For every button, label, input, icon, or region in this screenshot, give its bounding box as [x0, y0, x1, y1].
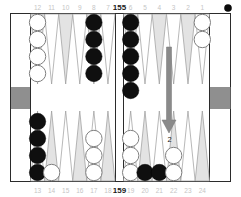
black-checker-point-8 [86, 65, 102, 81]
black-checker-point-8 [86, 31, 102, 47]
black-checker-point-8 [86, 14, 102, 30]
pip-count-bottom: 159 [113, 186, 127, 195]
point-number-label: 21 [156, 187, 164, 194]
white-checker-point-12 [29, 31, 45, 47]
point-number-label: 18 [104, 187, 112, 194]
point-number-label: 24 [199, 187, 207, 194]
white-checker-point-12 [29, 48, 45, 64]
white-checker-point-12 [29, 65, 45, 81]
on-roll-indicator [224, 4, 232, 12]
white-checker-point-12 [29, 14, 45, 30]
point-number-label: 5 [143, 4, 147, 11]
white-checker-point-19 [122, 130, 138, 146]
point-number-label: 10 [62, 4, 70, 11]
black-checker-point-8 [86, 48, 102, 64]
black-checker-point-20 [137, 164, 153, 180]
right-tray-block [210, 87, 231, 109]
point-number-label: 4 [158, 4, 162, 11]
black-checker-point-6 [122, 82, 138, 98]
point-number-label: 13 [34, 187, 42, 194]
point-number-label: 8 [92, 4, 96, 11]
point-number-label: 1 [201, 4, 205, 11]
white-checker-point-1 [194, 31, 210, 47]
backgammon-board: 121110987654321131415161718192021222324 … [0, 0, 241, 197]
black-checker-point-6 [122, 48, 138, 64]
point-number-label: 22 [170, 187, 178, 194]
black-checker-point-6 [122, 31, 138, 47]
point-number-label: 3 [172, 4, 176, 11]
white-checker-point-19 [122, 147, 138, 163]
point-number-label: 2 [186, 4, 190, 11]
pip-count-top: 155 [113, 3, 127, 12]
point-number-label: 12 [34, 4, 42, 11]
point-number-label: 23 [184, 187, 192, 194]
point-number-label: 16 [76, 187, 84, 194]
black-checker-point-13 [29, 147, 45, 163]
backgammon-diagram: 121110987654321131415161718192021222324 … [0, 0, 241, 197]
black-checker-point-6 [122, 14, 138, 30]
point-number-label: 6 [129, 4, 133, 11]
point-number-label: 7 [106, 4, 110, 11]
black-checker-point-13 [29, 130, 45, 146]
point-number-label: 15 [62, 187, 70, 194]
white-checker-point-17 [86, 130, 102, 146]
black-checker-point-6 [122, 65, 138, 81]
white-checker-point-22 [165, 147, 181, 163]
point-number-label: 11 [48, 4, 55, 11]
move-distance-label: 2 [167, 135, 171, 144]
black-checker-point-13 [29, 113, 45, 129]
point-number-label: 20 [141, 187, 149, 194]
white-checker-point-19 [122, 164, 138, 180]
left-tray-block [11, 87, 30, 109]
white-checker-point-17 [86, 147, 102, 163]
point-number-label: 14 [48, 187, 56, 194]
white-checker-point-17 [86, 164, 102, 180]
white-checker-point-14 [43, 164, 59, 180]
point-number-label: 19 [127, 187, 135, 194]
point-number-label: 17 [90, 187, 98, 194]
white-checker-point-1 [194, 14, 210, 30]
point-number-label: 9 [78, 4, 82, 11]
white-checker-point-22 [165, 164, 181, 180]
